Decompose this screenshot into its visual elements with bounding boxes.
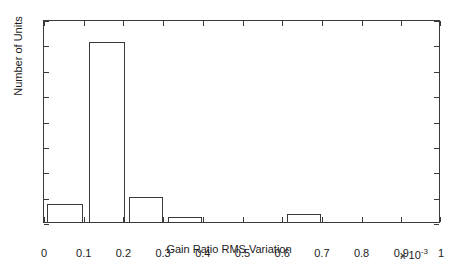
y-tick-mark [44, 224, 49, 225]
y-tick-mark [44, 97, 49, 98]
x-tick-mark [362, 217, 363, 222]
y-tick-mark-right [434, 173, 439, 174]
y-tick-mark-right [434, 148, 439, 149]
histogram-bar [129, 197, 163, 222]
y-axis-title: Number of Units [12, 0, 24, 126]
y-tick-mark-right [434, 72, 439, 73]
bars-layer [44, 21, 439, 222]
x-tick-mark [123, 217, 124, 222]
x-axis-multiplier-base: x 10 [400, 249, 421, 261]
y-tick-mark-right [434, 97, 439, 98]
x-tick-mark-top [401, 21, 402, 26]
histogram-bar [287, 214, 321, 222]
x-tick-mark-top [163, 21, 164, 26]
x-tick-mark-top [123, 21, 124, 26]
x-tick-mark-top [243, 21, 244, 26]
y-tick-mark [44, 199, 49, 200]
y-tick-mark [44, 72, 49, 73]
x-tick-mark [322, 217, 323, 222]
x-tick-mark-top [44, 21, 45, 26]
x-tick-mark-top [362, 21, 363, 26]
y-tick-mark-right [434, 21, 439, 22]
histogram-bar [168, 217, 202, 222]
y-tick-mark-right [434, 123, 439, 124]
x-tick-mark [440, 217, 441, 222]
x-tick-mark-top [440, 21, 441, 26]
histogram-figure: Number of Units 01020304050607080 00.10.… [0, 0, 458, 269]
y-tick-mark-right [434, 199, 439, 200]
histogram-bar [89, 42, 125, 222]
x-tick-mark-top [84, 21, 85, 26]
y-tick-mark [44, 173, 49, 174]
x-tick-mark [44, 217, 45, 222]
x-tick-mark [203, 217, 204, 222]
x-axis-multiplier-exponent: -3 [421, 247, 428, 256]
x-tick-mark [401, 217, 402, 222]
y-tick-mark-right [434, 46, 439, 47]
y-tick-mark [44, 46, 49, 47]
x-tick-mark [163, 217, 164, 222]
x-axis-title: Gain Ratio RMS Variation [0, 243, 458, 255]
y-tick-mark-right [434, 224, 439, 225]
x-tick-mark-top [203, 21, 204, 26]
x-axis-multiplier: x 10-3 [400, 247, 428, 261]
x-tick-mark [84, 217, 85, 222]
plot-axes-frame: 01020304050607080 00.10.20.30.40.50.60.7… [43, 20, 440, 223]
x-tick-mark-top [282, 21, 283, 26]
x-tick-mark [282, 217, 283, 222]
y-tick-mark [44, 148, 49, 149]
histogram-bar [47, 204, 83, 222]
y-tick-mark [44, 123, 49, 124]
x-tick-mark-top [322, 21, 323, 26]
x-tick-mark [243, 217, 244, 222]
